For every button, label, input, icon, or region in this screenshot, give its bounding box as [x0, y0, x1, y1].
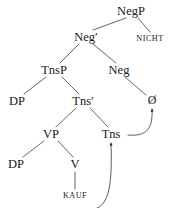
branch-neg-zero: [125, 77, 146, 95]
node-tnsp: TnsP: [41, 64, 67, 77]
branch-tnsp-tnsbar: [62, 77, 79, 94]
branch-vp-dp2: [23, 141, 44, 157]
movement-arrow-tns-to-zero: [128, 109, 152, 135]
branch-tnsbar-vp: [56, 108, 76, 127]
node-vp: VP: [43, 128, 59, 141]
node-nicht: NICHT: [136, 35, 163, 43]
node-neg: Neg: [109, 64, 130, 77]
movement-arrow-kauf-to-tns: [97, 143, 111, 208]
branch-negp-nicht: [138, 18, 150, 32]
node-dp-object: DP: [8, 158, 24, 171]
node-dp-subject: DP: [9, 95, 25, 108]
branch-tnsbar-tns: [90, 108, 108, 127]
node-kauf: KAUF: [63, 192, 87, 200]
syntax-tree-figure: NegP Neg′ NICHT TnsP Neg DP Tns′ Ø VP Tn…: [0, 0, 175, 208]
branch-negbar-neg: [93, 44, 116, 63]
node-v: V: [70, 158, 79, 171]
node-tns-bar: Tns′: [72, 95, 93, 108]
node-neg-bar: Neg′: [74, 31, 98, 44]
node-negp: NegP: [117, 5, 145, 18]
branch-vp-v: [58, 141, 73, 157]
node-tns: Tns: [102, 128, 121, 141]
branch-tnsp-dp1: [24, 77, 46, 94]
branch-negbar-tnsp: [60, 44, 79, 63]
node-null-head: Ø: [148, 94, 157, 106]
branch-negp-negbar: [93, 18, 126, 30]
